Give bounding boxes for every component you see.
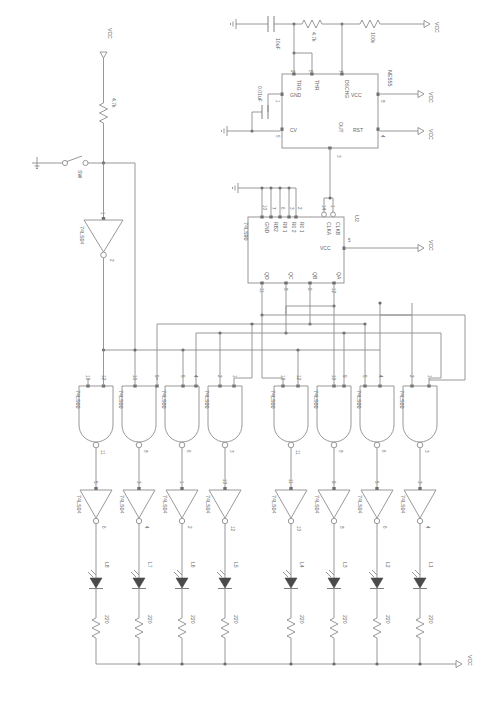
inverter-8: 74LS04 3 4 (400, 481, 436, 529)
pin-number-rb2: 7 (271, 207, 276, 210)
nand-ref: 74LS00 (399, 390, 405, 409)
junction-dot (180, 662, 183, 665)
junction-dot (378, 301, 381, 304)
pin-number-qa: 12 (331, 288, 336, 294)
pin-marker (294, 216, 297, 219)
pin-number-gnd: 10 (262, 205, 267, 211)
led-l5: L5 (217, 562, 239, 589)
vcc-label: VCC (107, 28, 113, 39)
inverter-row: 74LS04 5 6 74LS04 3 4 74LS04 1 2 74LS0 (76, 479, 436, 532)
nand-gate-3: 74LS00 5 4 6 (161, 375, 199, 453)
junction-dot (375, 662, 378, 665)
switch-sw[interactable] (42, 156, 104, 166)
pin-number-clka: 14 (321, 205, 326, 211)
pin-marker (223, 487, 226, 490)
junction-dot (137, 662, 140, 665)
net-flag-vcc-top-right: VCC (424, 21, 440, 34)
nand-in-b: 4 (378, 375, 383, 378)
pin-marker (343, 247, 346, 250)
led-label: L3 (342, 562, 348, 568)
nand-in-b: 4 (193, 375, 198, 378)
inverter-3: 74LS04 1 2 (162, 481, 198, 529)
resistor-value: 220 (147, 615, 153, 624)
pin-marker (332, 487, 335, 490)
led-l4: L4 (283, 562, 305, 589)
led-l3: L3 (326, 562, 348, 589)
resistor-value: 220 (299, 615, 305, 624)
nand-in-b: 12 (296, 375, 301, 381)
wire-qd-bus (262, 315, 465, 348)
inv-ref: 74LS04 (357, 495, 363, 514)
nand-in-a: 5 (362, 375, 367, 378)
pin-number-vcc-counter: 5 (348, 238, 351, 243)
pin-number-vcc: 8 (380, 100, 385, 103)
led-l7: L7 (131, 562, 153, 589)
nand-out: 3 (229, 450, 234, 453)
pin-number-gnd: 1 (275, 100, 280, 103)
resistor-value: 220 (233, 615, 239, 624)
nand-ref: 74LS00 (270, 390, 276, 409)
led-label: L2 (385, 562, 391, 568)
junction-dot (329, 197, 332, 200)
clk-bubble (331, 212, 336, 217)
nand-gate-1: 74LS00 13 12 11 (75, 375, 113, 455)
r1-value-label: 4.7k (311, 32, 317, 42)
pin-number-qb: 9 (307, 288, 312, 291)
pin-name-rst: RST (353, 127, 363, 133)
sw-label: SW (77, 170, 83, 178)
nand-ref: 74LS00 (313, 390, 319, 409)
vcc-label: VCC (434, 22, 440, 33)
nand-out: 11 (295, 450, 300, 455)
schematic-sheet: VCC 10uF 4.7k 100k NE555 TRG THR DSCHG G… (0, 0, 494, 701)
wire-c2-left (252, 112, 262, 131)
pin-number-trg: 2 (290, 70, 295, 73)
pin-marker (289, 487, 292, 490)
inv-ref: 74LS04 (76, 495, 82, 514)
pin-name-trg: TRG (296, 80, 302, 91)
pin-marker (292, 73, 295, 76)
inv-in-pin: 1 (179, 481, 184, 484)
nand-gate-group: 74LS00 13 12 11 74LS00 10 9 8 74LS00 (75, 375, 437, 455)
resistor-220-5 (287, 612, 295, 644)
nand-in-a: 10 (331, 375, 336, 381)
inv-in-pin: 11 (288, 479, 293, 484)
pin-name-qb: QB (312, 272, 318, 280)
resistor-r3-4k7 (100, 95, 108, 131)
inv-ref: 74LS04 (119, 495, 125, 514)
pin-marker (310, 73, 313, 76)
wire-sw-rail-right (104, 163, 136, 350)
pin-number-qc: 8 (283, 288, 288, 291)
resistor-220-6 (330, 612, 338, 644)
pin-marker (340, 73, 343, 76)
pin-name-dschg: DSCHG (344, 80, 350, 98)
inv-out-pin: 8 (339, 526, 344, 529)
ground-symbol-switch (32, 157, 42, 169)
led-l2: L2 (369, 562, 391, 589)
nand-out: 11 (100, 450, 105, 455)
pin-marker (269, 216, 272, 219)
nand-in-a: 13 (85, 375, 90, 381)
nand-ref: 74LS00 (118, 390, 124, 409)
ground-symbol-cv (222, 126, 240, 136)
led-label: L1 (428, 562, 434, 568)
pin-name-qc: QC (288, 272, 294, 280)
junction-dot (133, 348, 136, 351)
input-inverter-ref: 74LS04 (79, 226, 85, 245)
nand-gate-5: 74LS00 13 12 11 (270, 375, 308, 455)
resistor-r2-100k (342, 20, 398, 28)
nand-out: 6 (186, 450, 191, 453)
pin-name-r91: R9 1 (282, 222, 288, 233)
resistor-value: 220 (104, 615, 110, 624)
pin-number-thr: 6 (308, 70, 313, 73)
nand-in-a: 2 (409, 375, 414, 378)
pin-name-rb2: RB2 (273, 222, 279, 232)
led-l8: L8 (88, 562, 110, 589)
resistor-220-3 (178, 612, 186, 644)
resistor-220-8 (416, 612, 424, 644)
nand-in-a: 10 (132, 375, 137, 381)
vcc-label: VCC (428, 129, 434, 140)
inv-in-pin: 5 (93, 481, 98, 484)
inv-out-pin: 6 (101, 526, 106, 529)
capacitor-c1 (268, 16, 274, 32)
nand-out: 6 (381, 450, 386, 453)
